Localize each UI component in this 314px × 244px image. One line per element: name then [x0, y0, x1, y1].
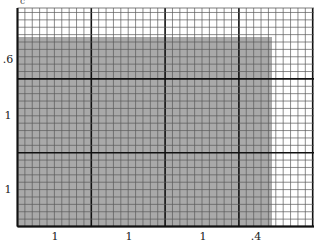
bottom-label: .4	[251, 231, 262, 242]
grid-paper	[0, 0, 314, 244]
bottom-label: 1	[126, 231, 133, 242]
grid-diagram: c .611111.4	[0, 0, 314, 244]
left-label: 1	[5, 110, 12, 121]
left-label: .6	[3, 54, 14, 65]
left-label: 1	[5, 184, 12, 195]
shaded-region	[18, 37, 273, 227]
bottom-label: 1	[52, 231, 59, 242]
bottom-label: 1	[200, 231, 207, 242]
